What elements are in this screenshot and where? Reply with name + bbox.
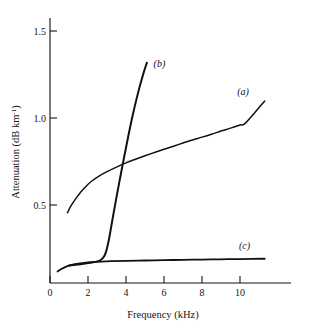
svg-text:Attenuation (dB km-1): Attenuation (dB km-1) xyxy=(10,105,23,199)
x-tick-label-10: 10 xyxy=(235,287,245,298)
curve-label-b: (b) xyxy=(154,58,166,70)
x-tick-label-4: 4 xyxy=(124,287,129,298)
y-tick-label-0: 0.5 xyxy=(34,200,47,211)
y-axis-ticks xyxy=(50,31,57,205)
x-axis-tick-labels: 0 2 4 6 8 10 xyxy=(48,287,246,298)
figure-container: 1.5 1.0 0.5 0 2 4 6 8 10 Frequency (kHz) xyxy=(0,0,311,330)
x-tick-label-0: 0 xyxy=(48,287,53,298)
curve-b xyxy=(69,63,147,266)
curve-a xyxy=(67,101,264,213)
x-tick-label-2: 2 xyxy=(86,287,91,298)
y-axis-title-main: Attenuation (dB km xyxy=(10,115,22,199)
x-axis-title: Frequency (kHz) xyxy=(127,309,199,321)
curve-label-a: (a) xyxy=(237,86,249,98)
data-curves xyxy=(58,63,265,272)
curve-c xyxy=(58,259,265,272)
y-tick-label-2: 1.5 xyxy=(34,26,47,37)
axes-group xyxy=(50,18,291,283)
y-axis-title-paren: ) xyxy=(10,105,22,109)
attenuation-frequency-chart: 1.5 1.0 0.5 0 2 4 6 8 10 Frequency (kHz) xyxy=(0,0,311,330)
x-tick-label-8: 8 xyxy=(200,287,205,298)
y-axis-tick-labels: 1.5 1.0 0.5 xyxy=(34,26,47,211)
x-tick-label-6: 6 xyxy=(162,287,167,298)
y-tick-label-1: 1.0 xyxy=(34,113,47,124)
y-axis-title: Attenuation (dB km-1) xyxy=(10,105,23,199)
x-axis-ticks xyxy=(50,276,240,283)
curve-label-c: (c) xyxy=(239,240,251,252)
curve-labels: (a) (b) (c) xyxy=(154,58,251,252)
